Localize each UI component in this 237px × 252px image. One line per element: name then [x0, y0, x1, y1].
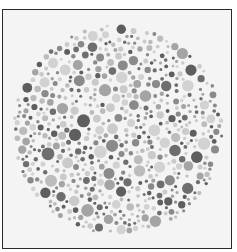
- dot-plate-image: [0, 0, 237, 252]
